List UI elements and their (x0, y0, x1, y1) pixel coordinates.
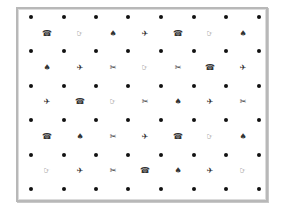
spade-icon: ♠ (239, 30, 246, 38)
pointing-hand-icon: ☞ (76, 30, 83, 38)
dot-marker (62, 49, 66, 53)
dot-marker (126, 15, 130, 19)
dot-marker (126, 187, 130, 191)
pointing-hand-icon: ☞ (43, 167, 50, 175)
dot-marker (29, 15, 33, 19)
dot-marker (159, 15, 163, 19)
dot-marker (29, 84, 33, 88)
spade-icon: ♠ (174, 98, 181, 106)
dot-marker (126, 118, 130, 122)
dot-marker (126, 153, 130, 157)
airplane-icon: ✈ (77, 167, 84, 175)
dot-marker (94, 84, 98, 88)
dot-marker (257, 118, 261, 122)
dot-marker (192, 15, 196, 19)
scissors-icon: ✂ (175, 64, 182, 72)
dot-marker (62, 84, 66, 88)
scissors-icon: ✂ (110, 167, 117, 175)
dot-marker (62, 153, 66, 157)
dot-marker (62, 15, 66, 19)
airplane-icon: ✈ (240, 64, 247, 72)
dot-marker (224, 49, 228, 53)
spade-icon: ♠ (239, 133, 246, 141)
dot-marker (126, 84, 130, 88)
dot-marker (192, 118, 196, 122)
airplane-icon: ✈ (207, 98, 214, 106)
dot-marker (192, 84, 196, 88)
telephone-icon: ☎ (75, 98, 85, 106)
dot-marker (94, 49, 98, 53)
dot-marker (159, 84, 163, 88)
telephone-icon: ☎ (42, 30, 52, 38)
dot-marker (29, 187, 33, 191)
dot-marker (192, 187, 196, 191)
dot-marker (257, 153, 261, 157)
pointing-hand-icon: ☞ (206, 30, 213, 38)
dot-marker (224, 153, 228, 157)
airplane-icon: ✈ (142, 30, 149, 38)
dot-marker (257, 84, 261, 88)
scissors-icon: ✂ (110, 133, 117, 141)
dot-marker (192, 49, 196, 53)
spade-icon: ♠ (109, 30, 116, 38)
dot-marker (159, 118, 163, 122)
airplane-icon: ✈ (44, 98, 51, 106)
pointing-hand-icon: ☞ (239, 167, 246, 175)
dot-marker (29, 153, 33, 157)
spade-icon: ♠ (76, 133, 83, 141)
dot-marker (94, 187, 98, 191)
dot-marker (159, 49, 163, 53)
dot-marker (94, 153, 98, 157)
dot-marker (224, 118, 228, 122)
pointing-hand-icon: ☞ (109, 98, 116, 106)
dot-marker (29, 49, 33, 53)
dot-marker (159, 187, 163, 191)
telephone-icon: ☎ (205, 64, 215, 72)
airplane-icon: ✈ (77, 64, 84, 72)
scissors-icon: ✂ (240, 98, 247, 106)
telephone-icon: ☎ (42, 133, 52, 141)
telephone-icon: ☎ (140, 167, 150, 175)
dot-marker (257, 187, 261, 191)
dot-marker (224, 15, 228, 19)
spade-icon: ♠ (174, 167, 181, 175)
scissors-icon: ✂ (142, 98, 149, 106)
spade-icon: ♠ (43, 64, 50, 72)
dot-marker (192, 153, 196, 157)
dot-marker (159, 153, 163, 157)
dot-marker (94, 118, 98, 122)
dot-marker (62, 118, 66, 122)
dot-marker (224, 187, 228, 191)
telephone-icon: ☎ (173, 133, 183, 141)
dot-marker (257, 49, 261, 53)
scissors-icon: ✂ (110, 64, 117, 72)
dot-marker (224, 84, 228, 88)
airplane-icon: ✈ (207, 167, 214, 175)
telephone-icon: ☎ (173, 30, 183, 38)
pointing-hand-icon: ☞ (141, 64, 148, 72)
pointing-hand-icon: ☞ (206, 133, 213, 141)
dot-marker (126, 49, 130, 53)
dot-marker (29, 118, 33, 122)
dot-marker (257, 15, 261, 19)
airplane-icon: ✈ (142, 133, 149, 141)
dot-marker (62, 187, 66, 191)
dot-marker (94, 15, 98, 19)
